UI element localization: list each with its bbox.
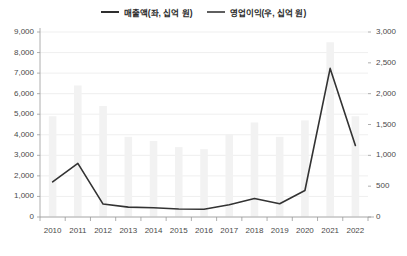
left-axis-label-7000: 7,000 — [14, 69, 34, 77]
left-axis-label-1000: 1,000 — [14, 192, 34, 200]
bar-2022 — [352, 116, 360, 217]
right-axis-label-0: 0 — [376, 213, 380, 221]
bar-2019 — [276, 137, 284, 217]
bar-2020 — [301, 120, 309, 217]
bar-2014 — [150, 141, 158, 217]
bar-2013 — [125, 137, 133, 217]
right-axis-label-1000: 1,000 — [376, 151, 396, 159]
x-axis-label-2013: 2013 — [114, 227, 142, 235]
x-axis-label-2022: 2022 — [341, 227, 369, 235]
right-axis-label-2500: 2,500 — [376, 59, 396, 67]
left-axis-label-4000: 4,000 — [14, 131, 34, 139]
right-axis-label-1500: 1,500 — [376, 121, 396, 129]
left-axis-label-5000: 5,000 — [14, 110, 34, 118]
bar-2015 — [175, 147, 183, 217]
x-axis-label-2015: 2015 — [165, 227, 193, 235]
x-axis-label-2016: 2016 — [190, 227, 218, 235]
bar-2018 — [251, 122, 259, 217]
left-axis-label-0: 0 — [30, 213, 34, 221]
left-axis-label-2000: 2,000 — [14, 172, 34, 180]
x-axis-label-2019: 2019 — [266, 227, 294, 235]
x-axis-label-2018: 2018 — [240, 227, 268, 235]
right-axis-label-2000: 2,000 — [376, 90, 396, 98]
x-axis-label-2014: 2014 — [140, 227, 168, 235]
bar-2010 — [49, 116, 57, 217]
left-axis-label-6000: 6,000 — [14, 90, 34, 98]
chart-container: 매출액(좌, 십억 원) 영업이익(우, 십억 원) 01,0002,0003,… — [0, 0, 407, 256]
x-axis-label-2011: 2011 — [64, 227, 92, 235]
bar-2011 — [74, 85, 82, 217]
x-axis-label-2012: 2012 — [89, 227, 117, 235]
x-axis-label-2017: 2017 — [215, 227, 243, 235]
x-axis-label-2021: 2021 — [316, 227, 344, 235]
x-axis-label-2010: 2010 — [39, 227, 67, 235]
right-axis-label-500: 500 — [376, 182, 389, 190]
plot-area — [0, 0, 407, 256]
left-axis-label-9000: 9,000 — [14, 28, 34, 36]
x-axis-label-2020: 2020 — [291, 227, 319, 235]
bar-2016 — [200, 149, 208, 217]
left-axis-label-3000: 3,000 — [14, 151, 34, 159]
left-axis-label-8000: 8,000 — [14, 49, 34, 57]
right-axis-label-3000: 3,000 — [376, 28, 396, 36]
